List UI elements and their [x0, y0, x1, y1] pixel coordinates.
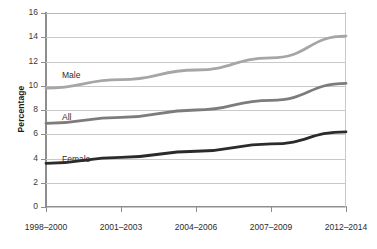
x-tick-mark — [121, 207, 122, 212]
y-tick-label: 16 — [14, 8, 38, 17]
y-tick-mark — [41, 13, 46, 14]
y-tick-label: 10 — [14, 81, 38, 90]
y-tick-mark — [41, 207, 46, 208]
series-line-female — [46, 132, 346, 164]
y-tick-label: 14 — [14, 32, 38, 41]
y-tick-label: 0 — [14, 202, 38, 211]
y-tick-label: 4 — [14, 154, 38, 163]
y-tick-label: 12 — [14, 57, 38, 66]
series-label-all: All — [62, 112, 71, 122]
y-tick-mark — [41, 159, 46, 160]
y-tick-mark — [41, 86, 46, 87]
y-tick-label: 2 — [14, 178, 38, 187]
y-tick-mark — [41, 183, 46, 184]
x-tick-mark — [196, 207, 197, 212]
y-tick-mark — [41, 134, 46, 135]
x-tick-mark — [271, 207, 272, 212]
y-tick-mark — [41, 62, 46, 63]
y-tick-mark — [41, 37, 46, 38]
y-axis-tick-labels: 0246810121416 — [14, 0, 38, 249]
x-tick-label: 2012–2014 — [301, 222, 377, 232]
series-line-all — [46, 83, 346, 123]
series-line-male — [46, 36, 346, 88]
y-tick-label: 6 — [14, 129, 38, 138]
plot-area — [46, 13, 346, 207]
series-label-female: Female — [62, 154, 90, 164]
series-label-male: Male — [62, 70, 80, 80]
y-tick-label: 8 — [14, 105, 38, 114]
x-tick-mark — [46, 207, 47, 212]
line-chart: Percentage 0246810121416 1998–20002001–2… — [0, 0, 377, 249]
series-lines — [46, 13, 346, 207]
y-tick-mark — [41, 110, 46, 111]
x-tick-mark — [346, 207, 347, 212]
